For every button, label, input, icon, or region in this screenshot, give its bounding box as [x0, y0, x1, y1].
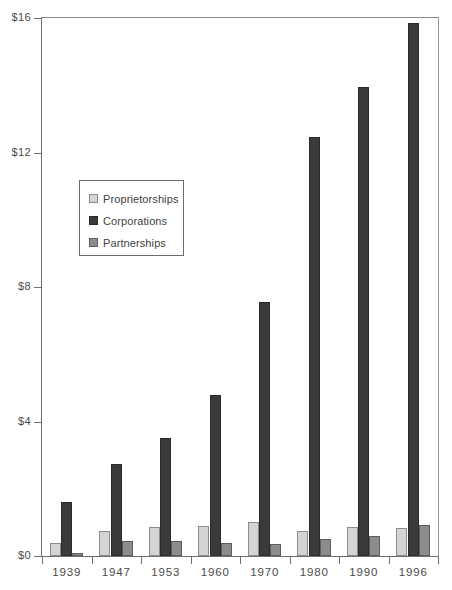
legend-item-partnerships: Partnerships — [89, 232, 183, 253]
x-axis-label-1947: 1947 — [91, 566, 141, 578]
x-axis-label-1996: 1996 — [388, 566, 438, 578]
bar-proprietorships-1947 — [99, 531, 110, 556]
legend-label-proprietorships: Proprietorships — [103, 193, 178, 205]
y-axis-tick — [34, 287, 41, 288]
x-axis-tick — [141, 557, 142, 564]
y-axis-tick — [34, 153, 41, 154]
legend-item-proprietorships: Proprietorships — [89, 188, 183, 209]
bar-corporations-1947 — [111, 464, 122, 556]
x-axis-tick — [191, 557, 192, 564]
y-axis-label: $0 — [0, 549, 31, 561]
x-axis-label-1960: 1960 — [190, 566, 240, 578]
legend-swatch-partnerships-icon — [89, 238, 98, 247]
bar-proprietorships-1939 — [50, 543, 61, 556]
bar-corporations-1990 — [358, 87, 369, 556]
legend-item-corporations: Corporations — [89, 210, 183, 231]
y-axis-label: $12 — [0, 146, 31, 158]
bar-proprietorships-1953 — [149, 527, 160, 556]
x-axis-tick — [339, 557, 340, 564]
bar-partnerships-1980 — [320, 539, 331, 556]
bar-corporations-1939 — [61, 502, 72, 556]
x-axis-tick — [92, 557, 93, 564]
bar-corporations-1980 — [309, 137, 320, 556]
y-axis-label: $16 — [0, 11, 31, 23]
x-axis-tick — [389, 557, 390, 564]
y-axis-label: $8 — [0, 280, 31, 292]
x-axis-label-1970: 1970 — [240, 566, 290, 578]
legend-label-corporations: Corporations — [103, 215, 167, 227]
bar-corporations-1996 — [408, 23, 419, 556]
bar-proprietorships-1980 — [297, 531, 308, 556]
bar-corporations-1960 — [210, 395, 221, 556]
bar-partnerships-1970 — [270, 544, 281, 556]
x-axis-label-1953: 1953 — [141, 566, 191, 578]
bar-partnerships-1939 — [72, 553, 83, 556]
y-axis-tick — [34, 422, 41, 423]
y-axis-label: $4 — [0, 415, 31, 427]
x-axis-tick — [42, 557, 43, 564]
x-axis-tick — [438, 557, 439, 564]
x-axis-label-1980: 1980 — [289, 566, 339, 578]
x-axis-label-1990: 1990 — [339, 566, 389, 578]
legend-label-partnerships: Partnerships — [103, 237, 166, 249]
bar-corporations-1970 — [259, 302, 270, 556]
bar-partnerships-1960 — [221, 543, 232, 556]
chart-legend: Proprietorships Corporations Partnership… — [79, 180, 184, 256]
bar-proprietorships-1970 — [248, 522, 259, 556]
bar-chart: $0$4$8$12$16 193919471953196019701980199… — [0, 0, 452, 590]
bar-proprietorships-1960 — [198, 526, 209, 556]
bar-proprietorships-1990 — [347, 527, 358, 556]
bar-partnerships-1953 — [171, 541, 182, 556]
plot-area — [41, 17, 439, 557]
legend-swatch-proprietorships-icon — [89, 194, 98, 203]
legend-swatch-corporations-icon — [89, 216, 98, 225]
x-axis-label-1939: 1939 — [42, 566, 92, 578]
bar-corporations-1953 — [160, 438, 171, 556]
y-axis-tick — [34, 18, 41, 19]
bar-proprietorships-1996 — [396, 528, 407, 556]
bar-partnerships-1996 — [419, 525, 430, 556]
bar-partnerships-1990 — [369, 536, 380, 556]
bar-partnerships-1947 — [122, 541, 133, 556]
x-axis-tick — [240, 557, 241, 564]
y-axis-tick — [34, 556, 41, 557]
x-axis-tick — [290, 557, 291, 564]
